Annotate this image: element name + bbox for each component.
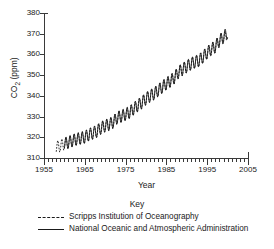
y-axis-title: CO2 (ppm) (10, 36, 22, 120)
x-minor-tick-1977 (134, 158, 135, 162)
x-major-tick-1975 (126, 158, 127, 165)
x-minor-tick-1964 (81, 158, 82, 162)
x-minor-tick-1984 (162, 158, 163, 162)
x-minor-tick-1960 (64, 158, 65, 162)
x-minor-tick-1958 (56, 158, 57, 162)
x-minor-tick-1971 (109, 158, 110, 162)
x-minor-tick-1986 (170, 158, 171, 162)
x-minor-tick-1963 (77, 158, 78, 162)
x-minor-tick-2004 (244, 158, 245, 162)
x-axis-title: Year (44, 181, 249, 190)
x-minor-tick-1992 (195, 158, 196, 162)
x-minor-tick-2001 (232, 158, 233, 162)
x-minor-tick-1989 (183, 158, 184, 162)
x-minor-tick-1990 (187, 158, 188, 162)
x-minor-tick-1993 (199, 158, 200, 162)
legend-title: Key (0, 199, 274, 209)
x-minor-tick-1987 (175, 158, 176, 162)
x-minor-tick-1981 (150, 158, 151, 162)
x-minor-tick-1957 (52, 158, 53, 162)
x-minor-tick-1994 (203, 158, 204, 162)
x-minor-tick-1997 (215, 158, 216, 162)
x-minor-tick-1973 (117, 158, 118, 162)
legend: Key Scripps Institution of Oceanography … (0, 199, 274, 233)
x-minor-tick-1972 (113, 158, 114, 162)
x-major-tick-2005 (248, 158, 249, 165)
x-minor-tick-1959 (60, 158, 61, 162)
legend-swatch-dashed-line (38, 213, 64, 221)
x-minor-tick-1988 (179, 158, 180, 162)
x-major-tick-1985 (166, 158, 167, 165)
x-minor-tick-1979 (142, 158, 143, 162)
y-tick-label-380: 380 (18, 9, 40, 17)
x-minor-tick-1999 (224, 158, 225, 162)
legend-item-scripps: Scripps Institution of Oceanography (0, 212, 274, 221)
x-minor-tick-1966 (89, 158, 90, 162)
x-minor-tick-1962 (73, 158, 74, 162)
legend-label-scripps: Scripps Institution of Oceanography (69, 212, 199, 221)
series-line-noaa (64, 29, 227, 148)
x-tick-label-1965: 1965 (70, 166, 100, 174)
x-minor-tick-1967 (93, 158, 94, 162)
x-minor-tick-1961 (68, 158, 69, 162)
x-minor-tick-1969 (101, 158, 102, 162)
legend-item-noaa: National Oceanic and Atmospheric Adminis… (0, 224, 274, 233)
legend-label-noaa: National Oceanic and Atmospheric Adminis… (69, 224, 248, 233)
x-tick-label-2005: 2005 (233, 166, 263, 174)
x-minor-tick-1978 (138, 158, 139, 162)
x-minor-tick-2002 (236, 158, 237, 162)
x-minor-tick-1996 (211, 158, 212, 162)
x-tick-label-1985: 1985 (151, 166, 181, 174)
plot-canvas (44, 13, 248, 158)
x-minor-tick-1956 (48, 158, 49, 162)
co2-keeling-curve-figure: 310320330340350360370380 195519651975198… (0, 0, 274, 249)
x-minor-tick-2003 (240, 158, 241, 162)
x-minor-tick-1998 (219, 158, 220, 162)
x-minor-tick-1983 (158, 158, 159, 162)
x-minor-tick-1991 (191, 158, 192, 162)
y-tick-label-310: 310 (18, 154, 40, 162)
y-tick-label-320: 320 (18, 133, 40, 141)
x-minor-tick-2000 (228, 158, 229, 162)
x-major-tick-1965 (85, 158, 86, 165)
x-tick-label-1995: 1995 (192, 166, 222, 174)
x-minor-tick-1976 (130, 158, 131, 162)
x-tick-label-1955: 1955 (29, 166, 59, 174)
x-major-tick-1995 (207, 158, 208, 165)
x-minor-tick-1980 (146, 158, 147, 162)
x-tick-label-1975: 1975 (111, 166, 141, 174)
x-major-tick-1955 (44, 158, 45, 165)
x-minor-tick-1982 (154, 158, 155, 162)
x-minor-tick-1970 (105, 158, 106, 162)
x-minor-tick-1974 (122, 158, 123, 162)
x-minor-tick-1968 (97, 158, 98, 162)
legend-swatch-solid-line (38, 225, 64, 233)
